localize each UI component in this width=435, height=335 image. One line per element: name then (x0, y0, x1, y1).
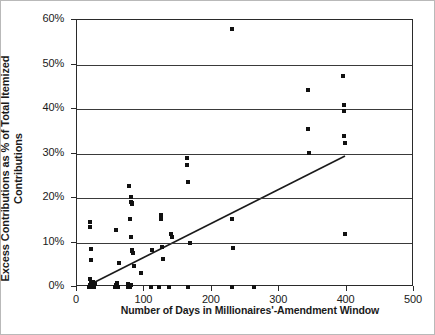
data-point (129, 235, 133, 239)
x-axis-tick-label: 0 (56, 294, 96, 305)
data-point (127, 184, 131, 188)
y-axis-tick-mark (71, 19, 76, 20)
data-point (129, 283, 133, 287)
y-axis-tick-label: 0% (24, 280, 64, 291)
data-point (88, 220, 92, 224)
data-point (186, 285, 190, 289)
gridline-horizontal (77, 154, 412, 155)
plot-area (76, 19, 413, 286)
data-point (114, 228, 118, 232)
data-point (150, 248, 154, 252)
y-axis-title: Excess Contributions as % of Total Itemi… (1, 1, 23, 335)
y-axis-tick-mark (71, 108, 76, 109)
data-point (342, 103, 346, 107)
x-axis-tick-label: 400 (326, 294, 366, 305)
data-point (342, 134, 346, 138)
x-axis-tick-mark (278, 286, 279, 291)
x-axis-tick-label: 100 (123, 294, 163, 305)
data-point (167, 285, 171, 289)
x-axis-tick-mark (143, 286, 144, 291)
data-point (160, 245, 164, 249)
y-axis-tick-label: 10% (24, 236, 64, 247)
data-point (116, 285, 120, 289)
data-point (117, 261, 121, 265)
y-axis-tick-label: 40% (24, 102, 64, 113)
y-axis-tick-label: 50% (24, 58, 64, 69)
data-point (93, 282, 97, 286)
x-axis-tick-label: 500 (393, 294, 433, 305)
y-axis-tick-label: 30% (24, 147, 64, 158)
data-point (159, 217, 163, 221)
data-point (132, 264, 136, 268)
x-axis-tick-mark (413, 286, 414, 291)
data-point (231, 246, 235, 250)
data-point (130, 202, 134, 206)
gridline-horizontal (77, 65, 412, 66)
trendline (77, 20, 412, 285)
data-point (185, 156, 189, 160)
x-axis-tick-label: 300 (258, 294, 298, 305)
y-axis-tick-mark (71, 64, 76, 65)
data-point (230, 217, 234, 221)
data-point (115, 281, 119, 285)
y-axis-title-line-2: Contributions (12, 56, 25, 282)
chart-figure: Excess Contributions as % of Total Itemi… (0, 0, 435, 335)
data-point (131, 251, 135, 255)
y-axis-tick-mark (71, 242, 76, 243)
data-point (230, 285, 234, 289)
y-axis-tick-mark (71, 197, 76, 198)
data-point (252, 285, 256, 289)
data-point (188, 241, 192, 245)
data-point (230, 27, 234, 31)
data-point (89, 258, 93, 262)
x-axis-tick-mark (346, 286, 347, 291)
data-point (161, 257, 165, 261)
data-point (306, 127, 310, 131)
data-point (343, 141, 347, 145)
data-point (157, 285, 161, 289)
data-point (88, 225, 92, 229)
data-point (341, 74, 345, 78)
data-point (139, 271, 143, 275)
data-point (149, 285, 153, 289)
x-axis-tick-mark (76, 286, 77, 291)
gridline-horizontal (77, 198, 412, 199)
data-point (343, 232, 347, 236)
data-point (342, 109, 346, 113)
data-point (185, 163, 189, 167)
data-point (170, 235, 174, 239)
x-axis-tick-label: 200 (191, 294, 231, 305)
y-axis-title-line-1: Excess Contributions as % of Total Itemi… (0, 56, 12, 282)
data-point (128, 217, 132, 221)
data-point (306, 88, 310, 92)
x-axis-tick-mark (211, 286, 212, 291)
x-axis-title: Number of Days in Millionaires'-Amendmen… (76, 304, 424, 316)
y-axis-tick-mark (71, 153, 76, 154)
gridline-horizontal (77, 243, 412, 244)
gridline-horizontal (77, 109, 412, 110)
data-point (186, 180, 190, 184)
data-point (307, 151, 311, 155)
data-point (88, 277, 92, 281)
y-axis-tick-label: 20% (24, 191, 64, 202)
data-point (89, 247, 93, 251)
data-point (129, 195, 133, 199)
y-axis-tick-label: 60% (24, 13, 64, 24)
